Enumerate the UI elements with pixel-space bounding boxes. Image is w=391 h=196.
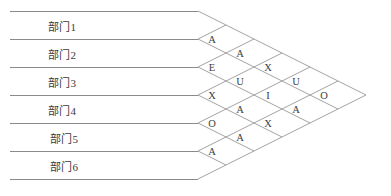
relationship-cell-5-6: A xyxy=(208,146,216,157)
department-label-5: 部门5 xyxy=(50,130,78,146)
relationship-cell-1-3: A xyxy=(236,48,244,59)
relationship-cell-3-6: X xyxy=(264,118,272,129)
relationship-cell-2-5: I xyxy=(266,90,270,101)
relationship-cell-1-5: U xyxy=(292,76,300,87)
relationship-cell-4-6: A xyxy=(236,132,244,143)
relationship-cell-2-3: E xyxy=(209,62,215,73)
department-label-1: 部门1 xyxy=(48,18,76,34)
relationship-cell-2-4: U xyxy=(236,76,244,87)
department-label-6: 部门6 xyxy=(50,158,78,174)
department-label-2: 部门2 xyxy=(48,46,76,62)
relationship-cell-1-6: O xyxy=(320,90,328,101)
relationship-cell-1-4: X xyxy=(264,62,272,73)
department-label-4: 部门4 xyxy=(48,102,76,118)
slp-relationship-diagram: 部门1部门2部门3部门4部门5部门6 AEXOAAUAAXIXUAO xyxy=(0,0,391,196)
department-band-lines xyxy=(10,11,198,179)
department-label-3: 部门3 xyxy=(48,74,76,90)
relationship-cell-1-2: A xyxy=(208,34,216,45)
relationship-cell-2-6: A xyxy=(292,104,300,115)
relationship-cell-4-5: O xyxy=(208,118,216,129)
relationship-cell-3-4: X xyxy=(208,90,216,101)
relationship-lattice-lines xyxy=(198,11,366,179)
relationship-cell-3-5: A xyxy=(236,104,244,115)
